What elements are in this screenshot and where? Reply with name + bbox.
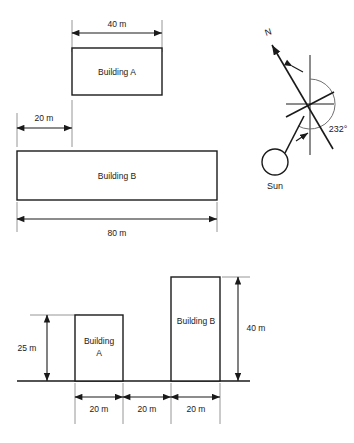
sun-circle bbox=[262, 149, 288, 175]
plan-dim-40m-label: 40 m bbox=[108, 19, 127, 29]
plan-dim-offset-20m: 20 m bbox=[17, 100, 72, 147]
compass-sun-diagram: N Sun 232° bbox=[262, 26, 348, 191]
elev-dim-gap-label: 20 m bbox=[138, 404, 157, 414]
plan-view: 40 m Building A 20 m Building B bbox=[17, 19, 217, 238]
angle-end-tick bbox=[296, 133, 308, 141]
building-b-elev-rect bbox=[171, 277, 220, 381]
north-label: N bbox=[263, 26, 272, 38]
sun-ray-line bbox=[285, 116, 304, 153]
plan-dim-offset-20m-label: 20 m bbox=[35, 113, 54, 123]
elev-dim-width-a-label: 20 m bbox=[90, 404, 109, 414]
elevation-view: 25 m Building A Building B 40 m bbox=[17, 277, 265, 424]
elev-dim-width-b-label: 20 m bbox=[187, 404, 206, 414]
building-b-plan-label: Building B bbox=[98, 171, 137, 181]
plan-dim-40m: 40 m bbox=[72, 19, 162, 52]
building-b-elev-label-line1: Building B bbox=[177, 316, 216, 326]
plan-dim-80m-label: 80 m bbox=[108, 228, 127, 238]
elev-dim-40m-label: 40 m bbox=[247, 323, 266, 333]
elev-bottom-dimensions: 20 m 20 m 20 m bbox=[75, 383, 220, 424]
building-b-plan: Building B bbox=[17, 151, 217, 200]
compass-angle-label: 232° bbox=[329, 124, 348, 134]
building-a-plan-label: Building A bbox=[98, 67, 136, 77]
building-a-elevation: Building A bbox=[75, 315, 123, 381]
elev-dim-40m: 40 m bbox=[222, 277, 265, 381]
elev-dim-25m-label: 25 m bbox=[18, 343, 37, 353]
plan-dim-80m: 80 m bbox=[17, 202, 217, 238]
building-a-elev-label-line2: A bbox=[96, 348, 102, 358]
diagram-canvas: 40 m Building A 20 m Building B bbox=[0, 0, 354, 443]
angle-start-tick bbox=[292, 66, 303, 72]
building-a-plan: Building A bbox=[72, 48, 162, 95]
building-a-elev-label-line1: Building bbox=[84, 336, 115, 346]
building-b-elevation: Building B bbox=[171, 277, 220, 381]
sun-label: Sun bbox=[267, 181, 283, 191]
elev-dim-25m: 25 m bbox=[18, 315, 80, 381]
technical-diagram: 40 m Building A 20 m Building B bbox=[0, 0, 354, 443]
